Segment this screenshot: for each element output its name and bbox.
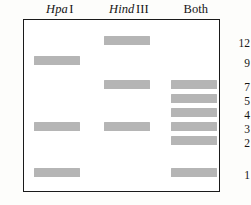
band — [104, 80, 150, 89]
enzyme-numeral-roman: Both — [184, 2, 209, 16]
size-ladder: 129754321 — [228, 0, 251, 205]
gel-electrophoresis-figure: HpaIHindIIIBoth 129754321 — [0, 0, 251, 205]
band — [171, 108, 217, 117]
enzyme-genus-italic: Hind — [109, 2, 134, 16]
gel-box — [23, 19, 220, 192]
ladder-label-3: 3 — [244, 124, 250, 136]
column-header-both: Both — [184, 2, 209, 17]
ladder-label-2: 2 — [244, 138, 250, 150]
band — [34, 122, 80, 131]
band — [171, 136, 217, 145]
ladder-label-9: 9 — [244, 58, 250, 70]
ladder-label-1: 1 — [244, 170, 250, 182]
lane-headers: HpaIHindIIIBoth — [0, 0, 251, 20]
band — [34, 56, 80, 65]
band — [171, 168, 217, 177]
band — [104, 36, 150, 45]
enzyme-genus-italic: Hpa — [46, 2, 68, 16]
band — [171, 122, 217, 131]
ladder-label-12: 12 — [239, 38, 251, 50]
ladder-label-4: 4 — [244, 110, 250, 122]
column-header-hpa1: HpaI — [46, 2, 74, 17]
enzyme-numeral-roman: III — [136, 2, 149, 16]
band — [34, 168, 80, 177]
ladder-label-5: 5 — [244, 96, 250, 108]
ladder-label-7: 7 — [244, 82, 250, 94]
enzyme-numeral-roman: I — [69, 2, 73, 16]
band — [171, 94, 217, 103]
column-header-hind3: HindIII — [109, 2, 149, 17]
band — [171, 80, 217, 89]
band — [104, 122, 150, 131]
